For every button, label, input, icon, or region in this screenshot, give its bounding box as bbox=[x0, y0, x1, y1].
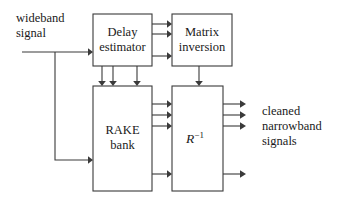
matrix-inversion-label-line1: Matrix bbox=[185, 25, 220, 39]
output-label-line2: narrowband bbox=[262, 119, 322, 133]
rinv-output-arrowhead-3 bbox=[240, 122, 246, 130]
delay-to-rake-arrowhead-3 bbox=[133, 81, 141, 86]
delay-to-rake-connections bbox=[98, 66, 141, 86]
rake-bank-label-line1: RAKE bbox=[105, 123, 139, 137]
output-label-line1: cleaned bbox=[262, 104, 301, 118]
delay-to-matrix-arrowhead-1 bbox=[167, 20, 172, 28]
delay-to-matrix-arrowhead-2 bbox=[167, 30, 172, 38]
rinv-output-arrowhead-2 bbox=[240, 111, 246, 119]
delay-estimator-label-line2: estimator bbox=[99, 40, 146, 54]
block-rake-bank[interactable]: RAKE bank bbox=[93, 86, 152, 191]
input-branch-to-rake-bank bbox=[55, 52, 88, 160]
delay-estimator-label-line1: Delay bbox=[108, 25, 139, 39]
input-to-rake-bank-arrowhead bbox=[88, 156, 93, 164]
output-signal-label: cleaned narrowband signals bbox=[262, 104, 322, 148]
rake-to-rinv-connections bbox=[152, 100, 172, 178]
matrix-to-rinv-arrowhead bbox=[195, 81, 203, 86]
delay-to-matrix-connections bbox=[152, 20, 172, 60]
input-label-line2: signal bbox=[16, 26, 46, 40]
rake-to-rinv-arrowhead-2 bbox=[167, 111, 172, 119]
block-r-inverse[interactable]: R−1 bbox=[172, 86, 223, 191]
matrix-to-rinv-connection bbox=[195, 66, 203, 86]
rake-to-rinv-arrowhead-3 bbox=[167, 122, 172, 130]
rake-bank-label-line2: bank bbox=[110, 138, 135, 152]
rinv-output-arrowhead-4 bbox=[240, 170, 246, 178]
rinv-output-arrowhead-1 bbox=[240, 100, 246, 108]
input-to-delay-estimator-arrowhead bbox=[88, 48, 93, 56]
block-delay-estimator[interactable]: Delay estimator bbox=[93, 14, 152, 66]
input-signal-label: wideband signal bbox=[16, 11, 65, 40]
r-inverse-exponent: −1 bbox=[194, 130, 204, 140]
delay-to-rake-arrowhead-2 bbox=[109, 81, 117, 86]
input-label-line1: wideband bbox=[16, 11, 65, 25]
output-label-line3: signals bbox=[262, 134, 297, 148]
delay-to-matrix-arrowhead-3 bbox=[167, 52, 172, 60]
rake-to-rinv-arrowhead-4 bbox=[167, 170, 172, 178]
block-matrix-inversion[interactable]: Matrix inversion bbox=[172, 14, 232, 66]
rake-to-rinv-arrowhead-1 bbox=[167, 100, 172, 108]
r-inverse-label: R−1 bbox=[185, 130, 204, 146]
block-diagram-svg: Delay estimator Matrix inversion RAKE ba… bbox=[0, 0, 347, 206]
diagram-canvas: Delay estimator Matrix inversion RAKE ba… bbox=[0, 0, 347, 206]
delay-to-rake-arrowhead-1 bbox=[98, 81, 106, 86]
rinv-output-connections bbox=[223, 100, 246, 178]
input-signal-path bbox=[22, 48, 93, 164]
matrix-inversion-label-line2: inversion bbox=[179, 40, 226, 54]
